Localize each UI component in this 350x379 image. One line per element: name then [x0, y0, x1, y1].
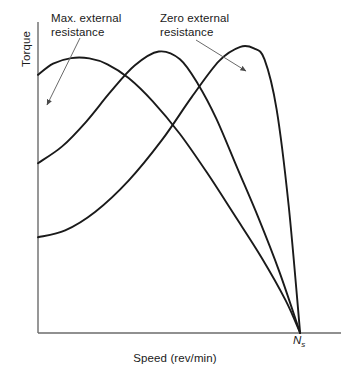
- curve-max-external-resistance: [38, 58, 300, 333]
- leader-line-max-resistance: [47, 38, 80, 105]
- leader-line-zero-resistance: [196, 40, 246, 71]
- chart-series-group: [38, 46, 300, 333]
- curve-zero-external-resistance: [38, 46, 300, 333]
- synchronous-speed-tick-label: Ns: [293, 334, 305, 349]
- chart-canvas: [0, 0, 350, 379]
- curve-medium-external-resistance: [38, 51, 300, 333]
- torque-speed-chart: Max. external resistance Zero external r…: [0, 0, 350, 379]
- y-axis-label: Torque: [20, 14, 32, 84]
- x-axis-label: Speed (rev/min): [0, 352, 350, 364]
- ns-subscript: s: [301, 340, 305, 349]
- annotation-zero-external-resistance: Zero external resistance: [160, 11, 229, 39]
- annotation-max-external-resistance: Max. external resistance: [51, 11, 121, 39]
